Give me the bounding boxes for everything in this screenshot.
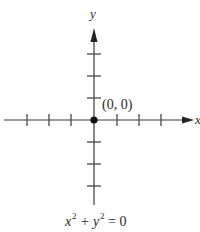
y-axis-arrow-icon bbox=[91, 28, 98, 42]
x-axis-arrow-icon bbox=[182, 117, 194, 124]
equation-y: y bbox=[91, 214, 100, 229]
equation-x: x bbox=[64, 214, 72, 229]
coordinate-plane: y x (0, 0) x 2 + y 2 = 0 bbox=[0, 0, 200, 232]
y-axis-label: y bbox=[88, 6, 96, 21]
equation-x-exponent: 2 bbox=[72, 211, 77, 221]
equation-plus: + bbox=[81, 214, 89, 229]
point-label: (0, 0) bbox=[102, 97, 133, 113]
equation-y-exponent: 2 bbox=[100, 211, 105, 221]
diagram-canvas: y x (0, 0) x 2 + y 2 = 0 bbox=[0, 0, 200, 232]
x-axis-label: x bbox=[194, 112, 200, 127]
equation-equals: = 0 bbox=[108, 214, 126, 229]
origin-point bbox=[90, 116, 97, 123]
equation: x 2 + y 2 = 0 bbox=[64, 211, 126, 229]
